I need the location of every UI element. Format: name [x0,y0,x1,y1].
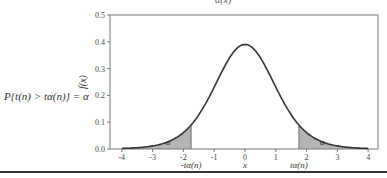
y-axis-label: f(x) [77,74,89,89]
x-tick-label: -1 [211,153,218,162]
alpha-label: α [320,137,325,147]
plot-frame [110,15,378,149]
y-tick-label: 0.3 [95,65,105,74]
y-tick-label: 0.4 [95,38,105,47]
x-tick-label: -4 [118,153,125,162]
density-curve [122,45,368,149]
x-tick-label: -3 [149,153,156,162]
t-distribution-plot: -4-3-2-1012340.00.10.20.30.40.5xf(x)-tα(… [0,0,387,178]
bottom-rule [0,171,387,173]
y-tick-label: 0.1 [95,118,105,127]
x-tick-label: 3 [335,153,339,162]
critical-value-label: tα(n) [290,160,308,170]
critical-value-label: -tα(n) [181,160,202,170]
x-tick-label: 4 [366,153,370,162]
x-tick-label: 1 [274,153,278,162]
y-tick-label: 0.0 [95,145,105,154]
y-tick-label: 0.2 [95,91,105,100]
y-tick-label: 0.5 [95,11,105,20]
x-axis-label: x [242,160,247,170]
alpha-label: α [166,137,171,147]
